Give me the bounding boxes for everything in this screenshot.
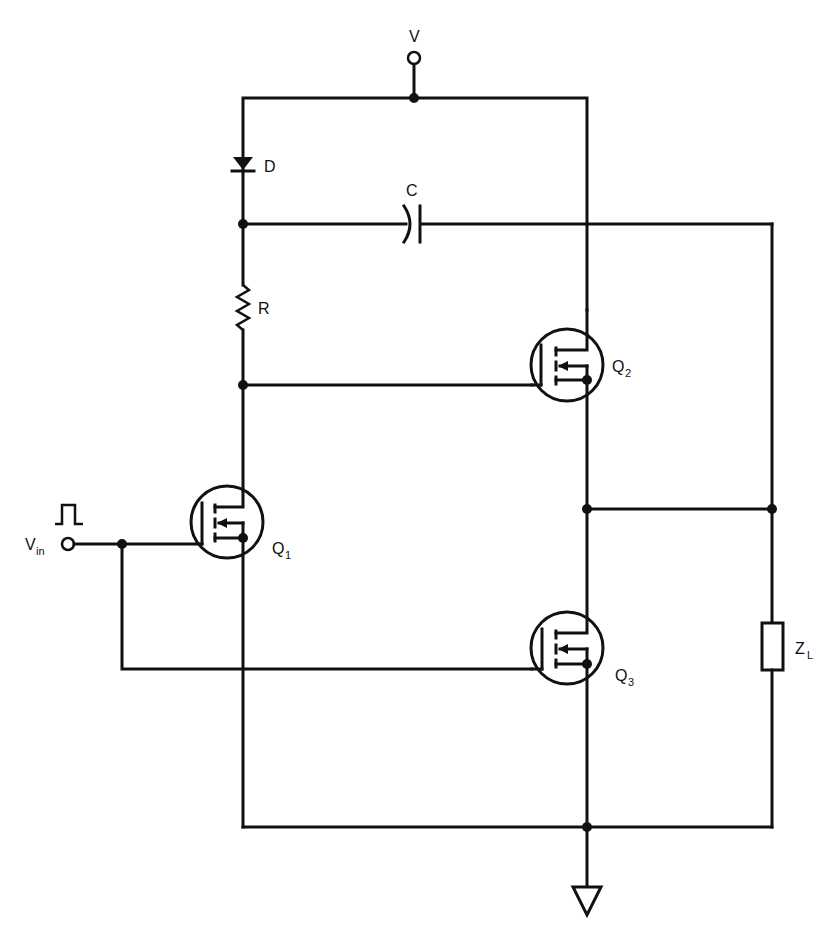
- output-rail-wire: [582, 224, 777, 623]
- q1-label: Q: [272, 540, 284, 557]
- left-branch-wire: R: [237, 224, 532, 490]
- load-impedance-icon: Z L: [762, 623, 813, 827]
- svg-text:2: 2: [625, 367, 631, 379]
- load-label: Z: [795, 640, 805, 657]
- circuit-schematic: V D C R: [0, 0, 833, 931]
- capacitor-branch: C: [238, 182, 772, 242]
- svg-text:L: L: [807, 649, 813, 661]
- ground-icon: [573, 887, 601, 915]
- input-label: V: [25, 536, 36, 553]
- diode-label: D: [264, 158, 276, 175]
- mosfet-q3-icon: Q 3: [531, 509, 634, 827]
- svg-text:3: 3: [628, 676, 634, 688]
- mosfet-q2-icon: Q 2: [531, 310, 631, 509]
- q3-label: Q: [615, 667, 627, 684]
- pulse-icon: [55, 505, 83, 524]
- diode-icon: D: [232, 157, 276, 175]
- mosfet-q1-icon: Q 1: [122, 486, 291, 827]
- resistor-label: R: [258, 300, 270, 317]
- resistor-icon: [237, 285, 249, 330]
- supply-label: V: [409, 28, 420, 45]
- input-terminal: V in: [25, 505, 532, 669]
- svg-text:1: 1: [285, 549, 291, 561]
- q2-label: Q: [612, 358, 624, 375]
- top-rail-wire: [243, 93, 587, 310]
- capacitor-label: C: [406, 182, 418, 199]
- supply-terminal: V: [408, 28, 420, 98]
- svg-text:in: in: [36, 545, 45, 557]
- ground-rail-wire: [243, 822, 772, 887]
